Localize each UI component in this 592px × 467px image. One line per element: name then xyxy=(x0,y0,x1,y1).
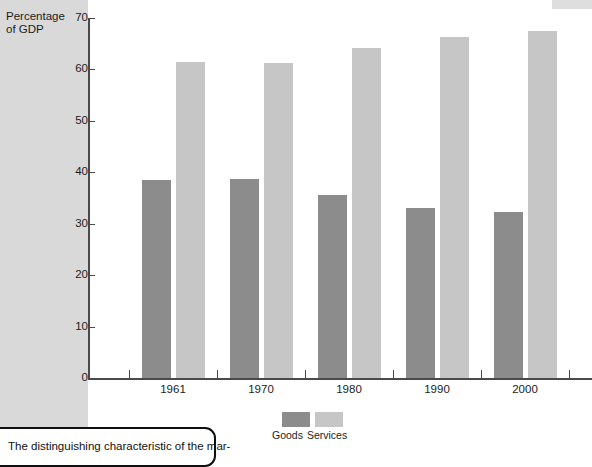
bar-goods-1990 xyxy=(406,208,435,378)
x-axis-category-label: 1980 xyxy=(309,384,389,396)
bar-chart: 010203040506070 19611970198019902000 xyxy=(0,0,592,400)
bar-goods-1970 xyxy=(230,179,259,378)
caption-callout-box: The distinguishing characteristic of the… xyxy=(0,427,216,467)
legend-label-goods: Goods xyxy=(272,430,303,441)
bar-goods-2000 xyxy=(494,212,523,378)
legend-swatch-services xyxy=(315,412,343,427)
x-axis-line xyxy=(88,378,592,380)
chart-legend: GoodsServices xyxy=(272,412,392,441)
bars-layer xyxy=(0,0,592,378)
legend-labels: GoodsServices xyxy=(272,430,392,441)
bar-services-1970 xyxy=(264,63,293,378)
bar-goods-1961 xyxy=(142,180,171,378)
bar-services-1990 xyxy=(440,37,469,378)
legend-label-services: Services xyxy=(307,430,347,441)
x-axis-category-label: 2000 xyxy=(485,384,565,396)
bar-services-1961 xyxy=(176,62,205,378)
caption-text: The distinguishing characteristic of the… xyxy=(8,439,230,453)
legend-swatches xyxy=(282,412,392,427)
bar-goods-1980 xyxy=(318,195,347,378)
x-axis-category-label: 1970 xyxy=(221,384,301,396)
legend-swatch-goods xyxy=(282,412,310,427)
bar-services-2000 xyxy=(528,31,557,378)
x-axis-category-label: 1990 xyxy=(397,384,477,396)
x-axis-category-label: 1961 xyxy=(133,384,213,396)
bar-services-1980 xyxy=(352,48,381,378)
